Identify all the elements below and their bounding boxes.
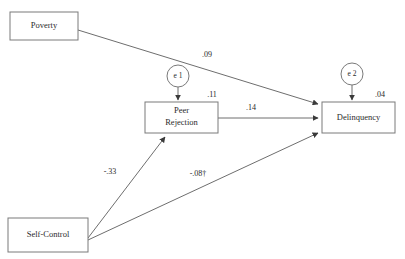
coefficient-label-e2-to-delinquency: .04 (375, 90, 385, 99)
path-self-control-to-delinquency (88, 133, 318, 240)
coefficient-label-peer-rejection-to-delinquency: .14 (246, 103, 256, 112)
coefficient-label-self-control-to-peer-rejection: -.33 (104, 167, 117, 176)
error-label-e2: e 2 (348, 69, 357, 78)
path-diagram-svg: e 1 e 2 Poverty Peer Rejection Delinquen… (0, 0, 405, 259)
coefficient-label-self-control-to-delinquency: -.08† (190, 169, 207, 178)
path-poverty-to-delinquency (78, 30, 318, 104)
path-self-control-to-peer-rejection (88, 137, 165, 238)
node-label-poverty: Poverty (31, 20, 58, 30)
node-label-peer-rejection-line1: Peer (174, 105, 189, 115)
node-label-peer-rejection-line2: Rejection (165, 117, 198, 127)
error-label-e1: e 1 (174, 71, 183, 80)
node-label-self-control: Self-Control (27, 229, 70, 239)
path-diagram-canvas: e 1 e 2 Poverty Peer Rejection Delinquen… (0, 0, 405, 259)
node-label-delinquency: Delinquency (337, 112, 381, 122)
coefficient-label-e1-to-peer-rejection: .11 (207, 90, 217, 99)
coefficient-label-poverty-to-delinquency: .09 (202, 50, 212, 59)
